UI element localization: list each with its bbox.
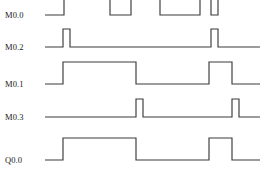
timing-diagram-canvas: M0.0 M0.2 M0.1 M0.3 Q0.0 [0,0,260,183]
signal-label-m02: M0.2 [5,42,24,52]
timing-diagram: M0.0 M0.2 M0.1 M0.3 Q0.0 [0,0,260,183]
signal-label-q00: Q0.0 [5,155,22,165]
signal-label-m03: M0.3 [5,112,24,122]
signal-label-m00: M0.0 [5,10,24,20]
waveform-m00 [45,0,218,15]
signal-label-m01: M0.1 [5,79,24,89]
signal-row-m03: M0.3 [5,99,260,122]
signal-row-q00: Q0.0 [5,138,260,165]
waveform-m01 [45,62,260,84]
waveform-q00 [45,138,260,160]
signal-row-m02: M0.2 [5,29,260,52]
waveform-m02 [45,29,260,47]
signal-row-m01: M0.1 [5,62,260,89]
signal-row-m00: M0.0 [5,0,218,20]
waveform-m03 [45,99,260,117]
